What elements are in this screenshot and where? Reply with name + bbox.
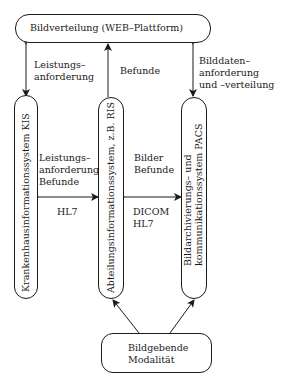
arrow-modality-ris xyxy=(113,300,139,333)
edge-web-pacs-label-line2: anforderung xyxy=(199,67,259,79)
node-modality-label-line2: Modalität xyxy=(128,354,175,366)
node-modality-label-line1: Bildgebende xyxy=(128,342,188,354)
edge-web-pacs-label-line1: Bilddaten– xyxy=(199,55,250,67)
edge-ris-pacs-label-line2: Befunde xyxy=(134,164,174,176)
edge-ris-pacs-protocol2: HL7 xyxy=(133,218,154,230)
node-pacs: Bildarchivierungs– und kommunikationssys… xyxy=(181,97,207,299)
node-kis-label: Krankenhausinformationssystem KIS xyxy=(20,113,32,292)
edge-kis-ris-label-line3: Befunde xyxy=(39,176,79,188)
edge-kis-ris-label-line1: Leistungs– xyxy=(39,152,91,164)
edge-ris-web-label: Befunde xyxy=(120,65,160,77)
node-ris: Abteilungsinformationssystem, z.B. RIS xyxy=(98,97,124,299)
node-ris-label: Abteilungsinformationssystem, z.B. RIS xyxy=(105,102,117,293)
edge-web-pacs-label-line3: und –verteilung xyxy=(199,79,274,91)
edge-web-kis-label-line1: Leistungs– xyxy=(34,59,86,71)
node-web-platform: Bildverteilung (WEB–Plattform) xyxy=(15,14,211,43)
node-pacs-label-line1: Bildarchivierungs– und xyxy=(182,154,194,266)
edge-kis-ris-label-line2: anforderung xyxy=(39,164,99,176)
edge-ris-pacs-protocol1: DICOM xyxy=(133,206,169,218)
node-pacs-label-line2: kommunikationssystem PACS xyxy=(193,124,205,267)
node-modality: Bildgebende Modalität xyxy=(101,333,212,373)
node-web-platform-label: Bildverteilung (WEB–Plattform) xyxy=(30,22,183,34)
node-kis: Krankenhausinformationssystem KIS xyxy=(14,95,38,299)
edge-web-kis-label-line2: anforderung xyxy=(34,71,94,83)
edge-ris-pacs-label-line1: Bilder xyxy=(134,152,163,164)
arrow-modality-pacs xyxy=(170,300,194,333)
edge-kis-ris-protocol: HL7 xyxy=(57,206,78,218)
